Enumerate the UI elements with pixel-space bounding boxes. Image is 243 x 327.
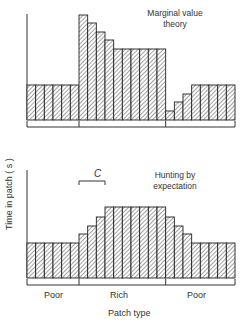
bar <box>209 243 218 278</box>
bottom-title-line2: expectation <box>130 181 220 192</box>
bar <box>27 243 36 278</box>
bar <box>209 85 218 120</box>
bar <box>105 40 114 120</box>
x-axis-label: Patch type <box>108 308 151 318</box>
bar <box>157 207 166 278</box>
bar <box>226 243 235 278</box>
bar <box>53 243 62 278</box>
bar <box>96 217 105 278</box>
bar <box>140 207 149 278</box>
bottom-title-line1: Hunting by <box>130 170 220 181</box>
bar <box>148 49 157 120</box>
bar <box>183 94 192 120</box>
bar <box>36 85 45 120</box>
bar <box>79 15 88 120</box>
bar <box>192 85 201 120</box>
bar <box>157 49 166 120</box>
bar <box>53 85 62 120</box>
bar <box>62 85 71 120</box>
bar <box>218 85 227 120</box>
bottom-panel-title: Hunting by expectation <box>130 170 220 192</box>
bar <box>174 102 183 120</box>
bar <box>166 111 175 120</box>
bar <box>44 243 53 278</box>
bar <box>114 49 123 120</box>
bar <box>122 49 131 120</box>
bar <box>200 243 209 278</box>
bar <box>70 243 79 278</box>
bar <box>226 85 235 120</box>
bar <box>96 32 105 120</box>
bar <box>122 207 131 278</box>
bar <box>148 207 157 278</box>
bar <box>192 243 201 278</box>
top-panel-title: Marginal value theory <box>130 8 220 30</box>
top-panel-bars <box>27 14 235 127</box>
bar <box>166 217 175 278</box>
y-axis-label: Time in patch ( s ) <box>4 158 14 230</box>
bar <box>88 226 97 278</box>
bar <box>79 234 88 278</box>
group-label-poor-right: Poor <box>187 290 206 300</box>
group-label-poor-left: Poor <box>44 290 63 300</box>
chart-canvas <box>0 0 243 327</box>
bar <box>88 23 97 120</box>
bar <box>183 234 192 278</box>
bar <box>105 207 114 278</box>
bar <box>36 243 45 278</box>
bar <box>44 85 53 120</box>
top-title-line2: theory <box>130 19 220 30</box>
bar <box>70 85 79 120</box>
top-title-line1: Marginal value <box>130 8 220 19</box>
bar <box>174 226 183 278</box>
bar <box>218 243 227 278</box>
bar <box>62 243 71 278</box>
bar <box>27 85 36 120</box>
group-label-rich: Rich <box>110 290 128 300</box>
bar <box>131 207 140 278</box>
bar <box>140 49 149 120</box>
annotation-c-label: C <box>94 168 101 179</box>
bar <box>200 85 209 120</box>
bar <box>114 207 123 278</box>
bar <box>131 49 140 120</box>
